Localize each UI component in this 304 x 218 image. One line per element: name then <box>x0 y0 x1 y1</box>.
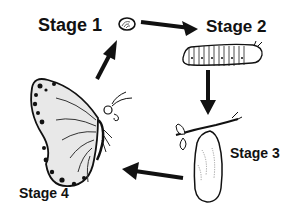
stage-2-label: Stage 2 <box>206 18 266 35</box>
arrow-stage3-to-stage4 <box>122 162 183 180</box>
arrow-stage2-to-stage3 <box>200 70 216 115</box>
arrow-stage1-to-stage2 <box>141 21 198 36</box>
caterpillar-icon <box>183 41 262 66</box>
egg-icon <box>119 18 135 30</box>
arrow-stage4-to-stage1 <box>97 40 117 79</box>
stage-3-label: Stage 3 <box>230 146 280 160</box>
butterfly-icon <box>31 79 132 186</box>
stage-1-label: Stage 1 <box>38 16 102 34</box>
stage-4-label: Stage 4 <box>19 186 69 200</box>
